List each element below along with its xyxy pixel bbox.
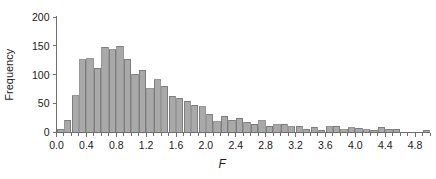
histogram-bar bbox=[251, 124, 257, 132]
histogram-bar bbox=[281, 124, 287, 132]
histogram-bar bbox=[132, 74, 138, 132]
histogram-bar bbox=[124, 59, 130, 132]
histogram-bar bbox=[266, 126, 272, 132]
x-axis-tick-label: 4.0 bbox=[348, 139, 363, 151]
x-axis-tick-label: 0.8 bbox=[109, 139, 124, 151]
histogram-bar bbox=[177, 98, 183, 132]
chart-canvas: 050100150200 0.00.40.81.21.62.02.42.83.2… bbox=[0, 0, 436, 179]
histogram-chart: 050100150200 0.00.40.81.21.62.02.42.83.2… bbox=[0, 0, 436, 179]
histogram-bar bbox=[274, 125, 280, 133]
x-axis-tick-label: 2.4 bbox=[228, 139, 243, 151]
histogram-bar bbox=[169, 96, 175, 132]
x-axis-tick-label: 2.8 bbox=[258, 139, 273, 151]
histogram-bar bbox=[311, 127, 317, 132]
histogram-bar bbox=[289, 127, 295, 133]
histogram-bar bbox=[229, 120, 235, 132]
histogram-bar bbox=[147, 89, 153, 133]
histogram-bar bbox=[139, 70, 145, 132]
histogram-bar bbox=[386, 129, 392, 132]
histogram-bar bbox=[65, 120, 71, 132]
histogram-bar bbox=[378, 127, 384, 132]
histogram-bar bbox=[259, 121, 265, 133]
y-axis-tick-label: 150 bbox=[32, 40, 50, 52]
y-axis-ticks bbox=[53, 17, 57, 133]
x-axis-tick-label: 4.4 bbox=[378, 139, 393, 151]
bars-layer bbox=[57, 46, 429, 132]
histogram-bar bbox=[244, 122, 250, 132]
x-axis-ticks bbox=[57, 133, 431, 138]
x-axis-tick-label: 1.6 bbox=[169, 139, 184, 151]
x-axis-tick-label: 3.2 bbox=[288, 139, 303, 151]
y-axis-title: Frequency bbox=[3, 48, 15, 100]
x-axis-title: F bbox=[219, 157, 227, 171]
y-axis-tick-label: 100 bbox=[32, 69, 50, 81]
histogram-bar bbox=[80, 60, 86, 133]
x-axis-tick-label: 3.6 bbox=[318, 139, 333, 151]
histogram-bar bbox=[393, 129, 399, 132]
histogram-bar bbox=[109, 50, 115, 133]
histogram-bar bbox=[72, 96, 78, 133]
histogram-bar bbox=[214, 122, 220, 133]
y-axis-tick-label: 50 bbox=[38, 97, 50, 109]
histogram-bar bbox=[326, 127, 332, 133]
x-axis-tick-labels: 0.00.40.81.21.62.02.42.83.23.64.04.44.8 bbox=[49, 139, 422, 151]
x-axis-tick-label: 2.0 bbox=[199, 139, 214, 151]
histogram-bar bbox=[199, 107, 205, 133]
histogram-bar bbox=[87, 59, 93, 133]
histogram-bar bbox=[192, 105, 198, 132]
histogram-bar bbox=[236, 118, 242, 132]
x-axis-tick-label: 0.4 bbox=[79, 139, 94, 151]
histogram-bar bbox=[57, 129, 63, 132]
histogram-bar bbox=[94, 68, 100, 132]
x-axis-tick-label: 4.8 bbox=[408, 139, 423, 151]
histogram-bar bbox=[304, 129, 310, 132]
histogram-bar bbox=[221, 116, 227, 132]
histogram-bar bbox=[117, 46, 123, 132]
histogram-bar bbox=[154, 80, 160, 133]
histogram-bar bbox=[162, 86, 168, 132]
histogram-bar bbox=[296, 126, 302, 132]
histogram-bar bbox=[207, 114, 213, 132]
histogram-bar bbox=[348, 128, 354, 133]
y-axis-tick-label: 0 bbox=[44, 126, 50, 138]
x-axis-tick-label: 1.2 bbox=[139, 139, 154, 151]
x-axis-tick-label: 0.0 bbox=[49, 139, 64, 151]
histogram-bar bbox=[184, 101, 190, 132]
y-axis-tick-label: 200 bbox=[32, 11, 50, 23]
y-axis-tick-labels: 050100150200 bbox=[32, 11, 50, 139]
histogram-bar bbox=[333, 126, 339, 132]
histogram-bar bbox=[102, 47, 108, 132]
histogram-bar bbox=[356, 128, 362, 132]
